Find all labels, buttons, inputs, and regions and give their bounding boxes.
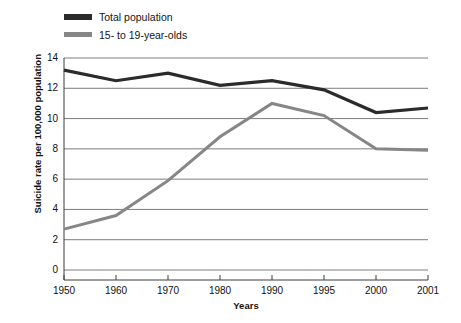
suicide-rate-line-chart: Total population 15- to 19-year-olds Sui… (0, 0, 461, 323)
series-line-teens (64, 103, 428, 229)
series-line-total-population (64, 70, 428, 112)
plot-area (0, 0, 461, 323)
